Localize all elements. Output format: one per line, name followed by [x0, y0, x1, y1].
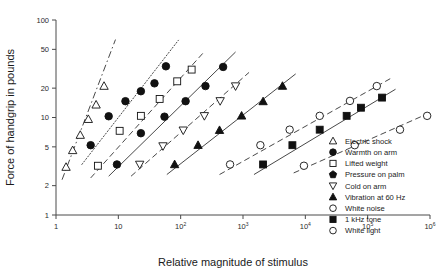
legend-marker-triangle-up-filled	[329, 193, 336, 200]
data-point-marker	[87, 141, 94, 148]
data-point-marker	[182, 97, 189, 104]
data-point-marker	[373, 82, 380, 89]
data-point-marker	[237, 112, 245, 120]
data-point-marker	[122, 97, 129, 104]
data-point-marker	[379, 94, 386, 101]
data-point-marker	[76, 131, 84, 139]
data-point-marker	[357, 104, 364, 111]
y-tick-label: 5	[45, 143, 49, 152]
legend: Electric shockWarmth on armLifted weight…	[329, 137, 405, 236]
data-point-marker	[151, 80, 158, 87]
x-tick-label: 106	[424, 221, 435, 231]
data-point-marker	[137, 87, 144, 94]
x-axis-title: Relative magnitude of stimulus	[158, 256, 308, 268]
legend-label: Electric shock	[345, 137, 392, 146]
y-tick-label: 2	[45, 181, 49, 190]
data-point-marker	[113, 161, 120, 168]
data-point-marker	[300, 162, 307, 169]
data-point-marker	[161, 113, 168, 120]
data-point-marker	[215, 126, 223, 134]
x-tick-label: 103	[237, 221, 248, 231]
data-point-marker	[286, 126, 293, 133]
legend-marker-square-open	[330, 160, 336, 166]
x-tick-label: 104	[300, 221, 311, 231]
y-tick-label: 50	[41, 45, 49, 54]
y-axis-title: Force of handgrip in pounds	[4, 49, 16, 186]
legend-marker-circle-open	[330, 205, 337, 212]
data-point-marker	[188, 66, 195, 73]
series-fit-line	[109, 52, 236, 176]
chart-figure: 100502010521110102103104105106Relative m…	[0, 0, 442, 273]
legend-label: White noise	[345, 204, 385, 213]
legend-label: Pressure on palm	[345, 170, 405, 179]
data-point-marker	[92, 100, 100, 108]
legend-label: Lifted weight	[345, 159, 389, 168]
series-cold-on-arm	[136, 83, 240, 169]
x-tick-label: 102	[175, 221, 186, 231]
x-tick-label: 1	[54, 222, 58, 231]
legend-marker-circle-filled	[330, 149, 337, 156]
data-point-marker	[105, 113, 112, 120]
data-point-marker	[219, 63, 226, 70]
y-tick-label: 1	[45, 211, 49, 220]
data-point-marker	[162, 63, 169, 70]
legend-label: Vibration at 60 Hz	[345, 193, 405, 202]
y-tick-label: 10	[41, 113, 49, 122]
series-fit-line	[167, 74, 296, 175]
data-point-marker	[346, 97, 353, 104]
x-tick-label: 10	[114, 222, 122, 231]
data-point-marker	[259, 97, 267, 105]
data-point-marker	[136, 161, 144, 169]
data-point-marker	[260, 161, 267, 168]
data-point-marker	[216, 98, 224, 106]
data-point-marker	[278, 82, 286, 90]
legend-marker-triangle-down-open	[329, 183, 336, 190]
data-point-marker	[316, 126, 323, 133]
data-point-marker	[174, 78, 181, 85]
data-point-marker	[100, 82, 108, 90]
data-point-marker	[62, 163, 70, 171]
legend-label: White light	[345, 226, 381, 235]
data-point-marker	[170, 160, 178, 168]
y-tick-label: 20	[41, 84, 49, 93]
data-point-marker	[200, 113, 208, 121]
data-point-marker	[159, 143, 167, 151]
data-point-marker	[226, 161, 233, 168]
data-point-marker	[423, 112, 430, 119]
legend-label: 1 kHz tone	[345, 215, 381, 224]
data-point-marker	[289, 142, 296, 149]
series-fit-line	[62, 40, 115, 180]
data-point-marker	[137, 129, 144, 136]
data-point-marker	[194, 141, 202, 149]
y-tick-label: 100	[36, 16, 49, 25]
data-point-marker	[94, 162, 101, 169]
data-point-marker	[257, 141, 264, 148]
data-point-marker	[137, 112, 144, 119]
data-point-marker	[343, 112, 350, 119]
data-point-marker	[116, 127, 123, 134]
data-point-marker	[202, 82, 209, 89]
data-point-marker	[179, 127, 187, 135]
data-point-marker	[68, 146, 76, 154]
legend-marker-pentagon-filled	[329, 171, 336, 178]
legend-marker-triangle-up-open	[329, 137, 336, 144]
legend-marker-circle-open	[330, 227, 337, 234]
cross-modality-chart: 100502010521110102103104105106Relative m…	[0, 0, 442, 273]
data-point-marker	[316, 112, 323, 119]
data-point-marker	[156, 95, 163, 102]
data-point-marker	[84, 115, 92, 123]
legend-label: Warmth on arm	[345, 148, 397, 157]
legend-label: Cold on arm	[345, 182, 386, 191]
data-point-marker	[396, 126, 403, 133]
legend-marker-square-filled	[330, 216, 336, 222]
series-electric-shock	[62, 82, 108, 171]
